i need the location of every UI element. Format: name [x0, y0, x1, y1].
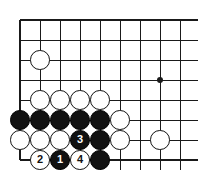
black-stone [90, 150, 110, 170]
white-stone [70, 90, 90, 110]
white-stone [50, 130, 70, 150]
white-stone-move-2: 2 [30, 150, 50, 170]
white-stone [110, 130, 130, 150]
black-stone-move-1: 1 [50, 150, 70, 170]
white-stone [50, 90, 70, 110]
white-stone [150, 130, 170, 150]
black-stone-move-3: 3 [70, 130, 90, 150]
black-stone [30, 110, 50, 130]
star-point-icon [157, 77, 163, 83]
black-stone [70, 110, 90, 130]
black-stone [50, 110, 70, 130]
black-stone [90, 130, 110, 150]
white-stone [90, 90, 110, 110]
white-stone [110, 110, 130, 130]
white-stone [30, 50, 50, 70]
black-stone [90, 110, 110, 130]
stone-move-number: 3 [77, 134, 83, 145]
go-diagram-figure: 3214 [0, 0, 198, 170]
stone-move-number: 2 [37, 154, 43, 165]
stone-move-number: 4 [77, 154, 83, 165]
stone-move-number: 1 [57, 154, 63, 165]
black-stone [10, 110, 30, 130]
white-stone [30, 130, 50, 150]
white-stone [30, 90, 50, 110]
white-stone [10, 130, 30, 150]
white-stone-move-4: 4 [70, 150, 90, 170]
